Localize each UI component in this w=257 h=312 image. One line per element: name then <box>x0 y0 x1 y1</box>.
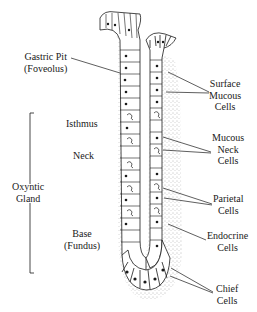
label-mucous-neck-line3: Cells <box>212 155 244 167</box>
leader-chief-1 <box>171 268 213 292</box>
label-surface-mucous-line1: Surface <box>209 78 241 90</box>
leader-gastric-pit <box>71 58 120 73</box>
label-neck-text: Neck <box>73 150 94 162</box>
label-base-line2: (Fundus) <box>64 240 100 252</box>
label-surface-mucous-line3: Cells <box>209 101 241 113</box>
label-base: Base (Fundus) <box>64 228 100 251</box>
label-endocrine-line2: Cells <box>207 242 248 254</box>
label-chief-line2: Cells <box>216 295 238 307</box>
label-neck: Neck <box>73 150 94 162</box>
label-mucous-neck-cells: Mucous Neck Cells <box>212 132 244 167</box>
label-surface-mucous-line2: Mucous <box>209 90 241 102</box>
label-gastric-pit: Gastric Pit (Foveolus) <box>24 51 67 74</box>
label-endocrine-line1: Endocrine <box>207 230 248 242</box>
label-isthmus-text: Isthmus <box>66 118 98 130</box>
label-chief-line1: Chief <box>216 283 238 295</box>
label-gastric-pit-line2: (Foveolus) <box>24 63 67 75</box>
label-endocrine-cells: Endocrine Cells <box>207 230 248 253</box>
label-gastric-pit-line1: Gastric Pit <box>24 51 67 63</box>
label-parietal-line2: Cells <box>213 205 244 217</box>
label-parietal-line1: Parietal <box>213 193 244 205</box>
label-surface-mucous-cells: Surface Mucous Cells <box>209 78 241 113</box>
leader-chief-2 <box>170 276 213 293</box>
label-oxyntic-gland-line2: Gland <box>12 193 44 205</box>
label-base-line1: Base <box>64 228 100 240</box>
label-parietal-cells: Parietal Cells <box>213 193 244 216</box>
label-chief-cells: Chief Cells <box>216 283 238 306</box>
left-epithelium <box>100 12 146 272</box>
label-isthmus: Isthmus <box>66 118 98 130</box>
label-oxyntic-gland: Oxyntic Gland <box>12 181 44 204</box>
label-mucous-neck-line1: Mucous <box>212 132 244 144</box>
label-mucous-neck-line2: Neck <box>212 144 244 156</box>
label-oxyntic-gland-line1: Oxyntic <box>12 181 44 193</box>
